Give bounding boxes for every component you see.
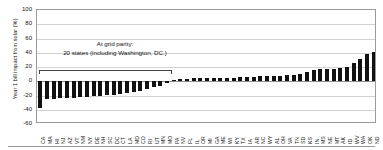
- bar: [232, 78, 236, 82]
- y-tick-label: -20: [23, 92, 32, 98]
- bar: [238, 77, 242, 81]
- bar: [178, 79, 182, 81]
- x-tick-label: OK: [368, 136, 373, 144]
- y-tick-label: -60: [23, 120, 32, 126]
- x-tick-label: CT: [121, 137, 126, 144]
- bar: [145, 81, 149, 89]
- bar: [312, 70, 316, 81]
- bar: [112, 81, 116, 95]
- bar: [265, 76, 269, 81]
- bar: [105, 81, 109, 95]
- bar: [205, 78, 209, 81]
- bar: [218, 78, 222, 82]
- grid-parity-bracket: [39, 66, 172, 74]
- bar: [72, 81, 76, 97]
- bar: [212, 78, 216, 82]
- x-tick-label: CO: [141, 136, 146, 144]
- x-tick-label: OR: [201, 136, 206, 144]
- x-tick-label: WI: [228, 138, 233, 144]
- bar: [372, 52, 376, 81]
- chart-figure: Year 1 bill impact from solar (%) 100806…: [0, 0, 383, 150]
- x-tick-label: CA: [41, 137, 46, 144]
- bar: [158, 81, 162, 85]
- bar: [172, 80, 176, 81]
- footer-rule: [8, 146, 375, 147]
- bar: [192, 78, 196, 81]
- bar: [138, 81, 142, 90]
- bar: [252, 77, 256, 81]
- x-tick-label: KS: [308, 137, 313, 144]
- x-tick-label: RI: [148, 139, 153, 144]
- bar: [65, 81, 69, 97]
- bracket-left-tick: [39, 70, 40, 74]
- x-tick-label: MN: [161, 136, 166, 144]
- bracket-horizontal-line: [39, 70, 172, 71]
- x-axis-tick-labels: CAMAHINJAZVTNMNYDENHSCDCCTLAMDCORIUTMNMO…: [36, 124, 376, 146]
- x-tick-label: AK: [341, 137, 346, 144]
- bar: [185, 79, 189, 81]
- x-tick-label: SD: [301, 137, 306, 144]
- bar: [285, 75, 289, 81]
- x-tick-label: IA: [248, 139, 253, 144]
- x-tick-label: ND: [375, 136, 380, 144]
- bar: [298, 74, 302, 81]
- y-tick-label: 60: [25, 35, 32, 41]
- bar: [78, 81, 82, 97]
- bar: [272, 76, 276, 81]
- x-tick-label: AZ: [68, 137, 73, 144]
- bar: [198, 78, 202, 81]
- bar: [365, 54, 369, 81]
- x-tick-label: MI: [208, 138, 213, 144]
- y-tick-label: 0: [29, 77, 32, 83]
- bar: [165, 81, 169, 83]
- x-tick-label: ID: [348, 139, 353, 144]
- y-tick-label: 100: [22, 6, 32, 12]
- x-tick-label: FL: [188, 138, 193, 144]
- bar: [132, 81, 136, 92]
- x-tick-label: NE: [328, 137, 333, 144]
- bar: [292, 75, 296, 81]
- bracket-right-tick: [171, 70, 172, 74]
- bar: [305, 72, 309, 81]
- bar: [58, 81, 62, 98]
- y-tick-label: -40: [23, 106, 32, 112]
- x-tick-label: OH: [281, 136, 286, 144]
- bar: [332, 69, 336, 81]
- y-tick-label: 20: [25, 63, 32, 69]
- bar: [85, 81, 89, 97]
- x-tick-label: ME: [221, 136, 226, 144]
- y-tick-label: 40: [25, 49, 32, 55]
- bar: [38, 81, 42, 108]
- x-tick-label: MA: [48, 136, 53, 144]
- x-tick-label: VA: [288, 137, 293, 144]
- x-tick-label: NV: [181, 137, 186, 144]
- x-tick-label: MO: [168, 136, 173, 144]
- bar: [278, 76, 282, 82]
- bar: [325, 69, 329, 81]
- x-tick-label: TX: [241, 137, 246, 144]
- x-tick-label: NY: [88, 137, 93, 144]
- x-tick-label: WY: [268, 136, 273, 144]
- x-tick-label: NC: [261, 136, 266, 144]
- x-tick-label: NJ: [61, 138, 66, 144]
- bar: [92, 81, 96, 96]
- bar: [352, 63, 356, 82]
- bar: [52, 81, 56, 99]
- y-axis-tick-labels: 100806040200-20-40-60: [12, 9, 32, 123]
- x-tick-label: SC: [108, 137, 113, 144]
- bar: [98, 81, 102, 95]
- bar: [358, 59, 362, 81]
- x-tick-label: WA: [361, 136, 366, 144]
- bar: [45, 81, 49, 99]
- bar: [152, 81, 156, 87]
- bar: [345, 67, 349, 81]
- x-tick-label: LA: [128, 138, 133, 144]
- x-tick-label: NH: [101, 136, 106, 144]
- bar: [125, 81, 129, 93]
- x-tick-label: NM: [81, 136, 86, 144]
- x-tick-label: MS: [321, 136, 326, 144]
- bar: [245, 77, 249, 81]
- bar: [118, 81, 122, 94]
- y-tick-label: 80: [25, 20, 32, 26]
- bar: [318, 69, 322, 81]
